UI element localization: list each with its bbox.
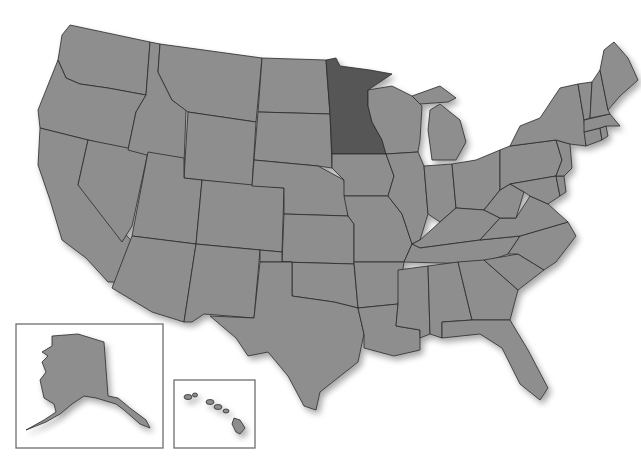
state-south-dakota[interactable]	[254, 112, 332, 168]
hawaii-inset	[174, 380, 255, 448]
state-colorado[interactable]	[196, 180, 284, 252]
state-kansas[interactable]	[282, 214, 354, 264]
state-wyoming[interactable]	[184, 112, 256, 186]
state-florida[interactable]	[442, 320, 548, 400]
state-arkansas[interactable]	[354, 262, 404, 308]
hawaii-inset-frame	[174, 380, 255, 448]
state-mississippi[interactable]	[396, 266, 430, 338]
state-new-york[interactable]	[510, 84, 586, 146]
state-north-dakota[interactable]	[258, 58, 330, 114]
us-map	[0, 0, 641, 469]
state-new-mexico[interactable]	[184, 244, 260, 322]
state-maine[interactable]	[600, 42, 638, 110]
alaska-inset	[16, 324, 163, 448]
